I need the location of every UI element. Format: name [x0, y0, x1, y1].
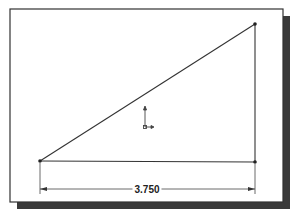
- sketch-point-top[interactable]: [253, 22, 257, 26]
- dimension-value-label[interactable]: 3.750: [132, 184, 161, 195]
- frame-shadow-bottom: [17, 202, 290, 209]
- frame-shadow-right: [283, 16, 290, 209]
- sketch-point-bottom-left[interactable]: [38, 159, 42, 163]
- drawing-frame: [10, 9, 283, 202]
- sketch-point-bottom-right[interactable]: [253, 160, 257, 164]
